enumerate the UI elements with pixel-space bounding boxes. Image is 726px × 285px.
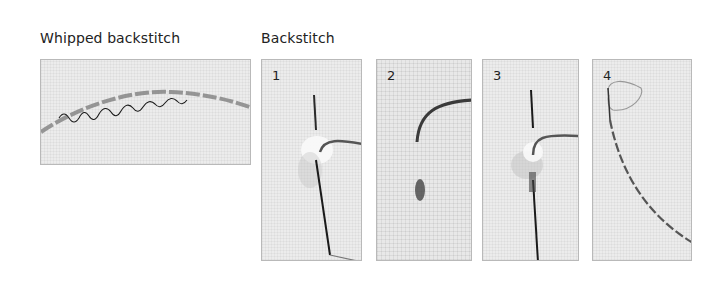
- needle-thread-illustration: [483, 60, 579, 261]
- whipped-stitch-illustration: [41, 60, 251, 165]
- backstitch-caption: Backstitch: [261, 30, 335, 46]
- step-1-photo: 1: [261, 59, 362, 261]
- step-4-photo: 4: [592, 59, 692, 261]
- step-3-photo: 3: [482, 59, 579, 261]
- step-2-photo: 2: [376, 59, 472, 261]
- whipped-backstitch-caption: Whipped backstitch: [40, 30, 180, 46]
- whipped-backstitch-photo: [40, 59, 251, 165]
- thread-loop-illustration: [377, 60, 472, 261]
- completed-backstitch-illustration: [593, 60, 692, 261]
- needle-thread-illustration: [262, 60, 362, 261]
